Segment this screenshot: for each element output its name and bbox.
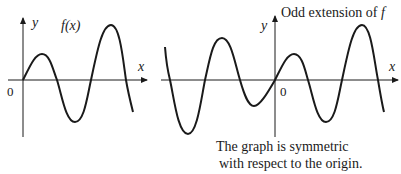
left-y-label: y — [30, 15, 39, 30]
right-title-text: Odd extension of — [281, 5, 381, 20]
right-y-label: y — [259, 18, 268, 33]
right-graph-title: Odd extension of f — [281, 5, 387, 20]
right-x-label: x — [388, 59, 396, 74]
right-origin-label: 0 — [280, 84, 287, 99]
right-title-f: f — [381, 5, 387, 20]
left-graph: y f(x) x 0 — [7, 15, 147, 137]
odd-extension-diagram: y f(x) x 0 Odd extension of f y x 0 The … — [0, 0, 401, 174]
left-x-label: x — [137, 59, 145, 74]
right-caption-line2: with respect to the origin. — [219, 156, 362, 171]
left-curve-f — [23, 25, 133, 122]
right-graph: Odd extension of f y x 0 The graph is sy… — [161, 5, 398, 171]
right-caption-line1: The graph is symmetric — [216, 139, 349, 154]
left-origin-label: 0 — [7, 84, 14, 99]
left-function-label: f(x) — [61, 18, 81, 34]
